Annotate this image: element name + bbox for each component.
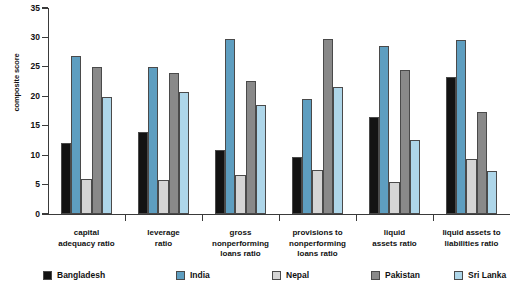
bar-india-group-6 [456,40,466,214]
bar-pakistan-group-5 [400,70,410,214]
bar-nepal-group-5 [389,182,399,214]
x-category-label-3-line-1: gross [196,228,285,239]
y-tick-0 [42,213,48,214]
legend-label: India [190,271,210,280]
legend-label: Pakistan [385,271,420,280]
bar-nepal-group-2 [158,180,168,214]
bar-sri-lanka-group-4 [333,87,343,214]
legend-item-india[interactable]: India [176,268,210,282]
legend-label: Nepal [286,271,309,280]
bar-india-group-2 [148,67,158,214]
x-category-label-1: capitaladequacy ratio [42,228,131,249]
bar-nepal-group-4 [312,170,322,214]
bar-nepal-group-6 [466,159,476,214]
x-category-label-4-line-1: provisions to [273,228,362,239]
plot-area: 05101520253035 capitaladequacy ratioleve… [48,8,510,214]
bar-bangladesh-group-2 [138,132,148,214]
legend-swatch-icon [454,271,463,280]
x-category-label-6-line-1: liquid assets to [427,228,516,239]
y-tick-label-25: 25 [18,62,40,71]
bar-sri-lanka-group-6 [487,171,497,214]
y-tick-label-20: 20 [18,92,40,101]
x-category-label-1-line-2: adequacy ratio [42,239,131,250]
x-category-label-6-line-2: liabilities ratio [427,239,516,250]
legend-item-sri-lanka[interactable]: Sri Lanka [454,268,506,282]
y-tick-25 [42,66,48,67]
y-tick-label-5: 5 [18,180,40,189]
bar-sri-lanka-group-3 [256,105,266,214]
bar-bangladesh-group-3 [215,150,225,214]
y-tick-label-15: 15 [18,121,40,130]
y-tick-5 [42,184,48,185]
x-category-label-2-line-1: leverage [119,228,208,239]
legend-label: Sri Lanka [468,271,506,280]
x-category-label-2: leverageratio [119,228,208,249]
legend-label: Bangladesh [57,271,105,280]
bar-pakistan-group-1 [92,67,102,214]
x-group-separator-2 [202,214,203,221]
bar-nepal-group-1 [81,179,91,214]
legend-item-pakistan[interactable]: Pakistan [371,268,420,282]
x-group-separator-4 [356,214,357,221]
x-group-separator-5 [433,214,434,221]
x-category-label-4-line-2: nonperforming [273,239,362,250]
y-axis-line [48,8,49,214]
x-group-separator-1 [125,214,126,221]
bar-pakistan-group-4 [323,39,333,214]
x-category-label-5: liquidassets ratio [350,228,439,249]
x-category-label-3-line-3: loans ratio [196,249,285,260]
legend-swatch-icon [371,271,380,280]
x-category-label-5-line-1: liquid [350,228,439,239]
y-tick-10 [42,155,48,156]
bar-bangladesh-group-4 [292,157,302,214]
x-category-label-5-line-2: assets ratio [350,239,439,250]
bar-bangladesh-group-5 [369,117,379,214]
bar-bangladesh-group-1 [61,143,71,214]
bar-nepal-group-3 [235,175,245,214]
bar-sri-lanka-group-2 [179,92,189,214]
legend-item-bangladesh[interactable]: Bangladesh [43,268,105,282]
x-category-label-4: provisions tononperformingloans ratio [273,228,362,260]
x-category-label-2-line-2: ratio [119,239,208,250]
x-group-separator-3 [279,214,280,221]
x-category-label-3-line-2: nonperforming [196,239,285,250]
y-tick-label-0: 0 [18,210,40,219]
legend-swatch-icon [176,271,185,280]
chart-legend: BangladeshIndiaNepalPakistanSri Lanka [0,268,521,284]
bar-sri-lanka-group-1 [102,97,112,214]
y-tick-20 [42,96,48,97]
y-tick-30 [42,37,48,38]
y-tick-15 [42,125,48,126]
bar-india-group-1 [71,56,81,214]
bar-india-group-4 [302,99,312,214]
bar-sri-lanka-group-5 [410,140,420,214]
bar-pakistan-group-6 [477,112,487,214]
legend-swatch-icon [272,271,281,280]
bar-india-group-3 [225,39,235,214]
bar-pakistan-group-3 [246,81,256,214]
legend-swatch-icon [43,271,52,280]
x-category-label-3: grossnonperformingloans ratio [196,228,285,260]
y-tick-label-30: 30 [18,33,40,42]
bar-bangladesh-group-6 [446,77,456,214]
bar-india-group-5 [379,46,389,214]
grouped-bar-chart: composite score 05101520253035 capitalad… [0,0,521,291]
x-category-label-1-line-1: capital [42,228,131,239]
x-category-label-6: liquid assets toliabilities ratio [427,228,516,249]
legend-item-nepal[interactable]: Nepal [272,268,309,282]
x-category-label-4-line-3: loans ratio [273,249,362,260]
y-tick-35 [42,7,48,8]
y-tick-label-10: 10 [18,151,40,160]
y-tick-label-35: 35 [18,4,40,13]
bar-pakistan-group-2 [169,73,179,214]
